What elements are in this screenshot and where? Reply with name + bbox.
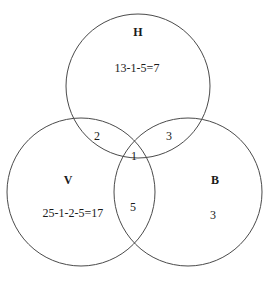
set-label-h: H: [133, 26, 142, 38]
venn-circles-group: [0, 0, 271, 287]
set-label-b: B: [211, 174, 219, 186]
region-value-h-and-v-and-b: 1: [131, 150, 137, 162]
region-value-h-and-v: 2: [94, 130, 100, 142]
region-value-h-only: 13-1-5=7: [115, 62, 160, 74]
set-label-v: V: [64, 174, 73, 186]
region-value-v-and-b: 5: [130, 201, 136, 213]
region-value-v-only: 25-1-2-5=17: [43, 207, 104, 219]
region-value-b-only: 3: [210, 209, 216, 221]
circle-v: [7, 118, 155, 266]
region-value-h-and-b: 3: [166, 130, 172, 142]
venn-diagram: H V B 13-1-5=7 25-1-2-5=17 3 2 3 5 1: [0, 0, 271, 287]
circle-b: [114, 118, 262, 266]
